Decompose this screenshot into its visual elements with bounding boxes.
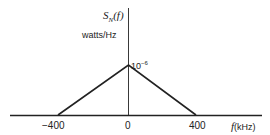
peak-value-label: 10−6 [131, 58, 148, 71]
tick-label-0: 0 [125, 121, 131, 131]
tick-label-400: 400 [189, 121, 206, 131]
y-axis-label: SN(f) [103, 10, 124, 25]
tick-label-neg-400: −400 [42, 121, 65, 131]
triangle-spectrum [58, 65, 196, 115]
y-axis-units: watts/Hz [82, 30, 117, 40]
x-axis-label: f(kHz) [231, 121, 256, 132]
